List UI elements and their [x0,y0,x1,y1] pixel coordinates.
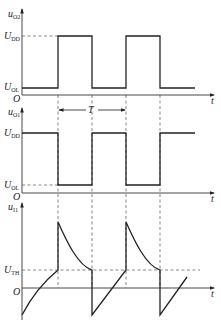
edge-guides [58,95,160,288]
level-label-uol: UOL [4,179,20,191]
t-label: t [211,193,214,204]
waveform-diagram: uO2 UDD UOL O t uO1 UDD UOL O t T uI1 UT… [0,0,221,329]
panel-uo1: uO1 UDD UOL O t T [4,104,214,204]
origin-label: O [13,286,20,297]
period-label: T [88,104,95,115]
level-label-udd: UDD [4,127,21,139]
y-axis-label: uI1 [8,201,18,213]
origin-label: O [13,93,20,104]
uo1-waveform [22,133,195,185]
level-label-uth: UTH [4,264,20,276]
y-axis-label: uO1 [8,106,20,118]
panel-uo2: uO2 UDD UOL O t [4,8,214,106]
t-label: t [211,95,214,106]
level-label-uol: UOL [4,81,20,93]
y-axis-label: uO2 [8,8,20,20]
level-label-udd: UDD [4,30,21,42]
panel-ui1: uI1 UTH O t [4,201,214,320]
uo2-waveform [22,36,195,88]
origin-label: O [13,191,20,202]
t-label: t [211,288,214,299]
ui1-waveform [22,222,187,315]
